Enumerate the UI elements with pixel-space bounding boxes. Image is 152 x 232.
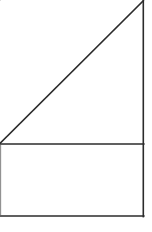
- rectangle-interior: [0, 144, 143, 216]
- geometric-figure-drawing: [0, 0, 152, 232]
- figure-canvas: [0, 0, 152, 232]
